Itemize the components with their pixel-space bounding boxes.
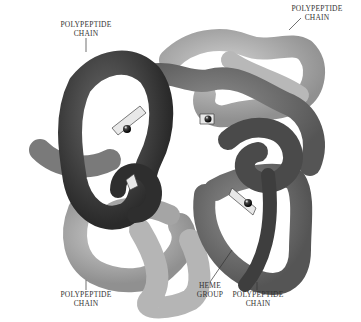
label-line: CHAIN [58, 29, 114, 38]
label-line: POLYPEPTIDE [58, 290, 114, 299]
label-line: CHAIN [230, 299, 286, 308]
heme-group-lower-right [229, 188, 256, 215]
label-line: CHAIN [58, 299, 114, 308]
label-polypeptide-chain-top-right: POLYPEPTIDE CHAIN [287, 4, 347, 22]
label-line: POLYPEPTIDE [58, 20, 114, 29]
hemoglobin-diagram [0, 0, 361, 322]
label-line: CHAIN [287, 13, 347, 22]
heme-group-upper-left [112, 106, 146, 135]
polypeptide-chain-top-left [70, 63, 161, 218]
label-line: GROUP [193, 290, 227, 299]
label-line: HEME [193, 281, 227, 290]
label-heme-group: HEME GROUP [193, 281, 227, 299]
label-polypeptide-chain-top-left: POLYPEPTIDE CHAIN [58, 20, 114, 38]
label-polypeptide-chain-bottom-left: POLYPEPTIDE CHAIN [58, 290, 114, 308]
label-polypeptide-chain-bottom-right: POLYPEPTIDE CHAIN [230, 290, 286, 308]
label-line: POLYPEPTIDE [287, 4, 347, 13]
label-line: POLYPEPTIDE [230, 290, 286, 299]
heme-group-center [200, 114, 214, 124]
